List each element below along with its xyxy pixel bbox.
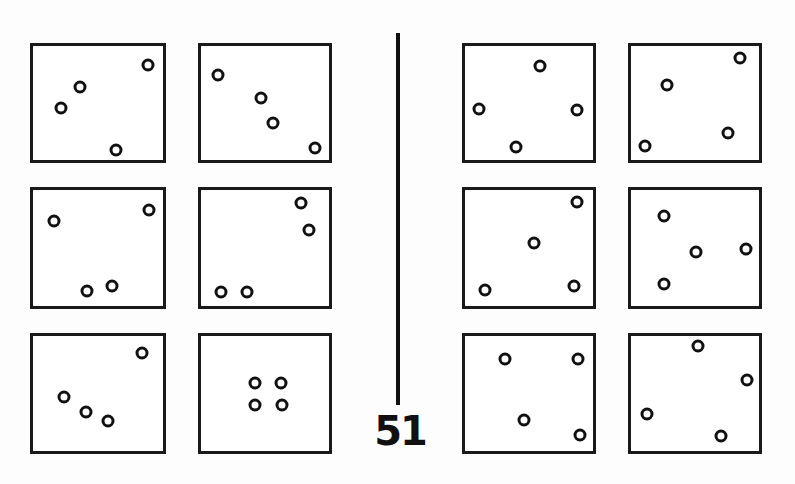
circle-dot-icon [499,353,512,366]
circle-dot-icon [479,284,492,297]
circle-dot-icon [212,69,225,82]
circle-dot-icon [276,399,289,412]
circle-dot-icon [74,81,87,94]
circle-dot-icon [571,104,584,117]
circle-dot-icon [473,103,486,116]
dot-panel-l6 [198,333,332,454]
circle-dot-icon [740,243,753,256]
circle-dot-icon [741,374,754,387]
circle-dot-icon [142,59,155,72]
circle-dot-icon [658,210,671,223]
circle-dot-icon [215,286,228,299]
circle-dot-icon [81,285,94,298]
circle-dot-icon [267,117,280,130]
circle-dot-icon [639,140,652,153]
circle-dot-icon [241,286,254,299]
circle-dot-icon [55,102,68,115]
circle-dot-icon [715,430,728,443]
circle-dot-icon [48,215,61,228]
circle-dot-icon [255,92,268,105]
circle-dot-icon [658,278,671,291]
circle-dot-icon [80,406,93,419]
circle-dot-icon [249,399,262,412]
circle-dot-icon [722,127,735,140]
circle-dot-icon [249,377,262,390]
circle-dot-icon [58,391,71,404]
circle-dot-icon [136,347,149,360]
circle-dot-icon [295,197,308,210]
circle-dot-icon [572,353,585,366]
circle-dot-icon [510,141,523,154]
circle-dot-icon [528,237,541,250]
figure-number-label: 51 [372,408,428,454]
circle-dot-icon [518,414,531,427]
circle-dot-icon [641,408,654,421]
circle-dot-icon [309,142,322,155]
circle-dot-icon [571,196,584,209]
circle-dot-icon [574,429,587,442]
vertical-divider-line [396,33,400,405]
circle-dot-icon [568,280,581,293]
circle-dot-icon [275,377,288,390]
circle-dot-icon [102,415,115,428]
circle-dot-icon [692,340,705,353]
circle-dot-icon [734,52,747,65]
circle-dot-icon [690,246,703,259]
circle-dot-icon [534,60,547,73]
circle-dot-icon [106,280,119,293]
circle-dot-icon [303,224,316,237]
circle-dot-icon [661,79,674,92]
circle-dot-icon [143,204,156,217]
circle-dot-icon [110,144,123,157]
